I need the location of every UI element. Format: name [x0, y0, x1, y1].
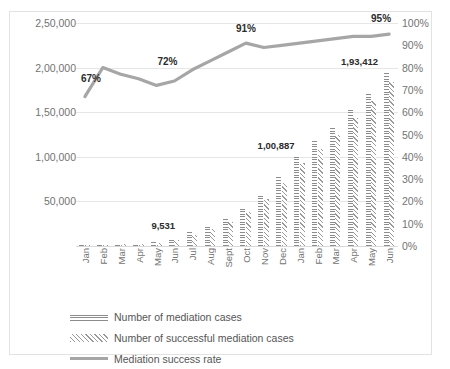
category-tick-label: May	[366, 248, 377, 266]
legend-item-mediation-success-rate: Mediation success rate	[70, 348, 390, 369]
left-value-axis: 50,0001,00,0001,50,0002,00,0002,50,000	[18, 12, 76, 257]
right-axis-tick-label: 40%	[402, 152, 446, 162]
legend-swatch-horizontal-hatch-icon	[70, 313, 108, 321]
category-tick-label: Mar	[116, 248, 127, 264]
data-label: 9,531	[151, 220, 175, 231]
right-axis-tick-label: 0%	[402, 241, 446, 251]
right-axis-tick-label: 70%	[402, 85, 446, 95]
category-tick-label: Jun	[169, 248, 180, 263]
right-axis-tick-label: 50%	[402, 130, 446, 140]
data-label: 91%	[236, 23, 256, 34]
category-tick-label: Jul	[187, 248, 198, 260]
axis-baseline	[76, 246, 398, 247]
legend-item-mediation-cases: Number of mediation cases	[70, 306, 390, 327]
right-axis-tick-label: 90%	[402, 40, 446, 50]
data-label: 1,00,887	[258, 140, 295, 151]
left-axis-tick-label: 1,50,000	[18, 107, 76, 117]
legend-item-successful-mediation-cases: Number of successful mediation cases	[70, 327, 390, 348]
category-tick-label: Jan	[80, 248, 91, 263]
left-axis-tick-label: 2,50,000	[18, 18, 76, 28]
category-tick-label: Apr	[134, 248, 145, 263]
right-axis-tick-label: 10%	[402, 219, 446, 229]
data-label: 72%	[158, 56, 178, 67]
category-tick-label: Sept	[223, 248, 234, 268]
category-tick-label: Apr	[348, 248, 359, 263]
data-label: 67%	[81, 73, 101, 84]
right-axis-tick-label: 80%	[402, 63, 446, 73]
category-tick-label: Jan	[295, 248, 306, 263]
category-tick-label: Dec	[277, 248, 288, 265]
right-axis-tick-label: 60%	[402, 107, 446, 117]
left-axis-tick-label: 50,000	[18, 196, 76, 206]
left-axis-tick-label: 2,00,000	[18, 63, 76, 73]
category-tick-label: Oct	[241, 248, 252, 263]
category-tick-label: May	[152, 248, 163, 266]
chart-legend: Number of mediation cases Number of succ…	[70, 306, 390, 369]
left-axis-tick-label: 1,00,000	[18, 152, 76, 162]
legend-label: Mediation success rate	[114, 353, 221, 365]
legend-swatch-line-icon	[70, 357, 108, 360]
legend-label: Number of mediation cases	[114, 311, 242, 323]
right-axis-tick-label: 20%	[402, 196, 446, 206]
legend-swatch-diagonal-hatch-icon	[70, 334, 108, 342]
category-axis: JanFebMarAprMayJunJulAugSeptOctNovDecJan…	[76, 248, 398, 292]
data-label: 1,93,412	[341, 56, 378, 67]
category-tick-label: Feb	[313, 248, 324, 264]
right-axis-tick-label: 30%	[402, 174, 446, 184]
data-label: 95%	[371, 13, 391, 24]
category-tick-label: Feb	[98, 248, 109, 264]
plot-area: 67%72%91%95%9,5311,00,8871,93,412	[76, 23, 398, 246]
chart-container: 50,0001,00,0001,50,0002,00,0002,50,000 0…	[9, 11, 432, 355]
category-tick-label: Mar	[330, 248, 341, 264]
category-tick-label: Jun	[384, 248, 395, 263]
right-axis-tick-label: 100%	[402, 18, 446, 28]
legend-label: Number of successful mediation cases	[114, 332, 294, 344]
right-percent-axis: 0%10%20%30%40%50%60%70%80%90%100%	[402, 12, 448, 257]
category-tick-label: Aug	[205, 248, 216, 265]
category-tick-label: Nov	[259, 248, 270, 265]
